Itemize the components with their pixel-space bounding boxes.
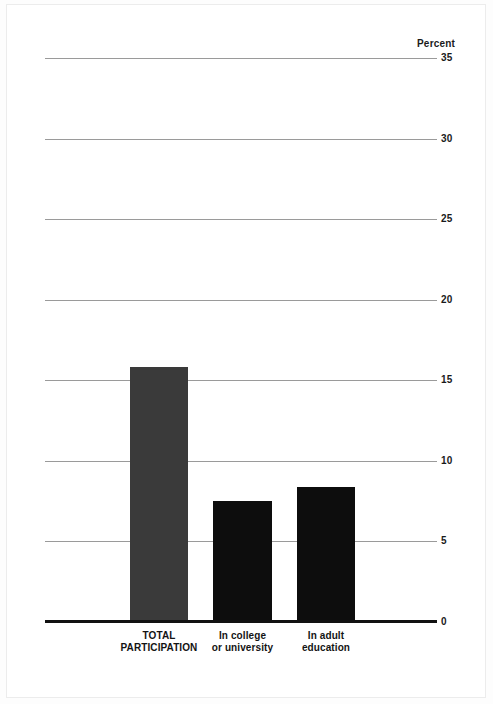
bar-chart: Percent 05101520253035 TOTALPARTICIPATIO… [0,0,493,704]
chart-page: Percent 05101520253035 TOTALPARTICIPATIO… [0,0,493,704]
gridline-20 [45,300,437,301]
category-label-3: In adulteducation [266,630,386,654]
y-tick-label-35: 35 [441,53,467,63]
category-label-line: education [266,642,386,654]
gridline-15 [45,380,437,381]
y-tick-label-20: 20 [441,295,467,305]
y-axis-unit-label: Percent [417,38,455,49]
y-tick-label-30: 30 [441,134,467,144]
bar-2 [213,501,272,622]
gridline-35 [45,58,437,59]
gridline-25 [45,219,437,220]
bar-3 [297,487,355,622]
bar-1 [130,367,188,622]
gridline-10 [45,461,437,462]
y-tick-label-0: 0 [441,617,467,627]
gridline-30 [45,139,437,140]
y-tick-label-25: 25 [441,214,467,224]
y-tick-label-10: 10 [441,456,467,466]
category-label-line: In adult [266,630,386,642]
y-tick-label-5: 5 [441,536,467,546]
x-axis-baseline [45,620,437,623]
y-tick-label-15: 15 [441,375,467,385]
